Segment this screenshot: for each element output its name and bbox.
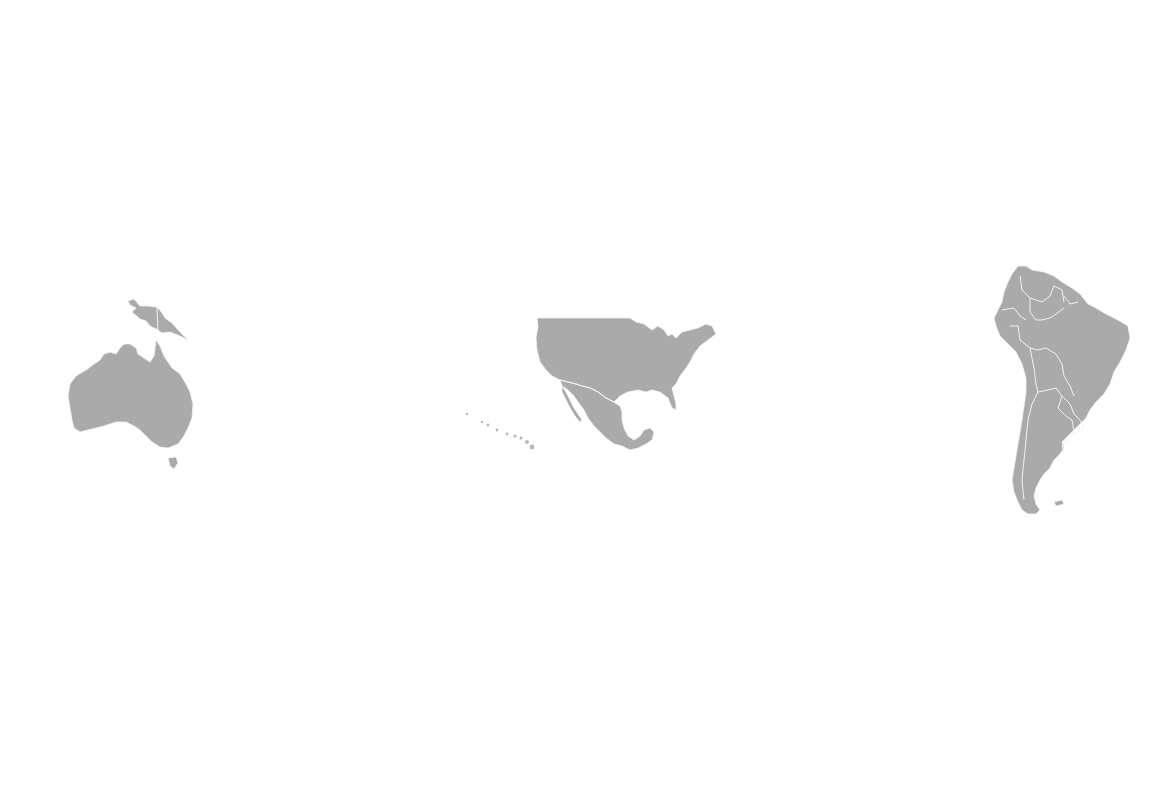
island bbox=[496, 429, 499, 432]
island bbox=[487, 424, 490, 427]
island bbox=[525, 440, 529, 444]
island bbox=[519, 436, 522, 439]
region-falkland-islands[interactable] bbox=[1054, 500, 1064, 506]
region-united-states[interactable] bbox=[536, 318, 716, 410]
oceania-group bbox=[68, 299, 193, 469]
island bbox=[481, 421, 483, 423]
south-america-group bbox=[994, 266, 1130, 514]
region-south-america[interactable] bbox=[994, 266, 1130, 514]
island bbox=[513, 434, 516, 437]
world-map bbox=[0, 0, 1175, 795]
island bbox=[506, 433, 509, 436]
island bbox=[466, 413, 468, 415]
region-tasmania[interactable] bbox=[168, 457, 178, 469]
north-america-group bbox=[536, 318, 716, 450]
region-australia[interactable] bbox=[68, 340, 193, 448]
hawaii-islands bbox=[466, 413, 535, 450]
island bbox=[530, 445, 535, 450]
